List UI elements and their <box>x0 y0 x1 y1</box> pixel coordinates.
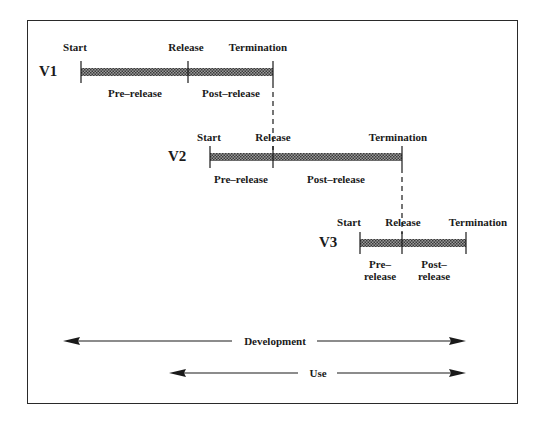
development-label: Development <box>244 335 306 347</box>
v3-release-label: Release <box>385 216 420 228</box>
v3-timeline <box>360 232 466 254</box>
v2-pre-release-label: Pre–release <box>214 173 268 185</box>
v1-bar <box>81 68 273 76</box>
v2-bar <box>210 153 402 161</box>
v2-timeline <box>210 146 402 168</box>
v3-termination-label: Termination <box>449 216 507 228</box>
v1-pre-release-label: Pre–release <box>108 87 162 99</box>
arrow-left-icon <box>63 337 80 345</box>
v1-termination-label: Termination <box>229 41 287 53</box>
v1-post-release-label: Post–release <box>202 87 260 99</box>
v2-release-label: Release <box>255 131 290 143</box>
v3-label: V3 <box>319 234 337 251</box>
v1-start-label: Start <box>63 41 87 53</box>
v2-post-release-label: Post–release <box>307 173 365 185</box>
arrow-right-icon <box>449 369 466 377</box>
v2-termination-label: Termination <box>369 131 427 143</box>
v2-start-label: Start <box>197 131 221 143</box>
v2-label: V2 <box>168 148 186 165</box>
v3-start-label: Start <box>337 216 361 228</box>
arrow-left-icon <box>169 369 186 377</box>
v3-post-release-label: Post– release <box>418 258 450 282</box>
v1-label: V1 <box>39 63 57 80</box>
use-label: Use <box>309 367 326 379</box>
arrow-right-icon <box>449 337 466 345</box>
v1-timeline <box>81 61 273 83</box>
v3-pre-release-label: Pre– release <box>364 258 396 282</box>
v1-release-label: Release <box>168 41 203 53</box>
v3-bar <box>360 239 466 247</box>
diagram-graphics <box>0 0 547 426</box>
